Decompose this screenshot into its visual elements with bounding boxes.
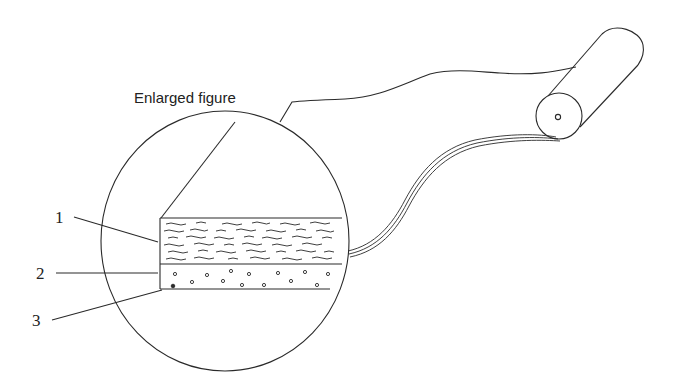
enlarged-figure-label: Enlarged figure bbox=[134, 89, 236, 106]
callout-1: 1 bbox=[55, 208, 64, 227]
enlarged-figure-pointer bbox=[161, 122, 235, 218]
magnifier-circle bbox=[101, 111, 349, 371]
diagram-canvas: Enlarged figure bbox=[0, 0, 678, 381]
dotted-layer bbox=[171, 269, 329, 287]
callout-2: 2 bbox=[36, 264, 45, 283]
callout-3: 3 bbox=[32, 311, 41, 330]
laminate-strip bbox=[348, 135, 560, 257]
fibrous-layer bbox=[164, 222, 334, 260]
sheet-outline bbox=[280, 67, 576, 122]
roll bbox=[536, 28, 643, 139]
callout-3-leader bbox=[52, 290, 162, 320]
layered-cross-section bbox=[160, 218, 342, 289]
callout-1-leader bbox=[74, 217, 158, 242]
roll-axle bbox=[555, 114, 560, 119]
roll-end bbox=[536, 93, 582, 139]
